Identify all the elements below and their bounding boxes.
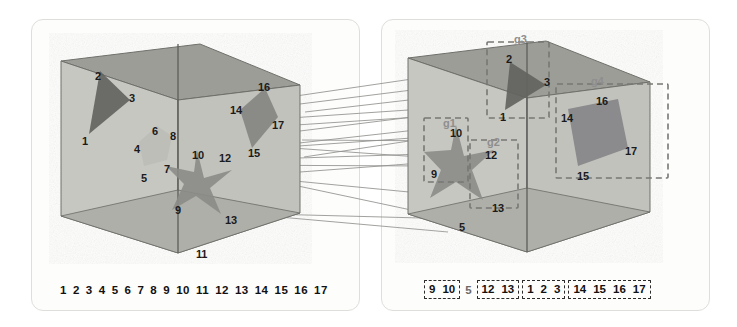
left-strip-item-1: 1 [60, 284, 67, 296]
right-strip-group-4: 14151617 [568, 280, 650, 299]
point-label-right-14: 14 [561, 113, 573, 124]
right-strip-item-17: 17 [633, 283, 646, 295]
point-label-right-12: 12 [485, 150, 497, 161]
left-strip-item-3: 3 [86, 284, 93, 296]
left-strip-item-7: 7 [137, 284, 144, 296]
left-strip-item-17: 17 [314, 284, 328, 296]
point-label-right-9: 9 [431, 169, 437, 180]
point-label-left-2: 2 [95, 71, 101, 82]
right-volume-panel [381, 19, 710, 311]
point-label-left-6: 6 [152, 126, 158, 137]
point-label-right-1: 1 [500, 112, 506, 123]
right-strip-group-3: 123 [522, 280, 565, 299]
left-strip-item-5: 5 [112, 284, 119, 296]
point-label-left-7: 7 [164, 164, 170, 175]
right-strip-group-0: 910 [424, 280, 460, 299]
right-strip-item-16: 16 [613, 283, 626, 295]
left-strip-item-15: 15 [275, 284, 289, 296]
left-strip-item-8: 8 [150, 284, 157, 296]
point-label-left-3: 3 [129, 93, 135, 104]
point-label-left-14: 14 [230, 105, 242, 116]
left-strip-item-2: 2 [73, 284, 80, 296]
point-label-right-15: 15 [577, 171, 589, 182]
left-strip-item-11: 11 [196, 284, 209, 296]
right-index-strip: 9105121312314151617 [424, 280, 651, 299]
right-strip-item-1: 1 [527, 283, 533, 295]
group-label-g2: g2 [487, 136, 500, 148]
point-label-left-1: 1 [82, 136, 88, 147]
point-label-left-8: 8 [170, 131, 176, 142]
point-label-left-15: 15 [248, 148, 260, 159]
right-strip-item-12: 12 [482, 283, 495, 295]
figure-root: 1234567891011121314151617231141617151091… [0, 0, 737, 327]
point-label-left-11: 11 [196, 249, 207, 260]
point-label-right-5: 5 [459, 222, 465, 233]
left-volume-panel [31, 19, 360, 311]
right-strip-item-5: 5 [465, 284, 471, 296]
right-strip-item-10: 10 [442, 283, 455, 295]
right-strip-item-9: 9 [429, 283, 435, 295]
right-strip-item-2: 2 [541, 283, 547, 295]
point-label-right-17: 17 [625, 146, 637, 157]
right-strip-group-1: 5 [463, 282, 473, 298]
point-label-right-2: 2 [506, 54, 512, 65]
left-strip-item-14: 14 [255, 284, 269, 296]
point-label-right-13: 13 [492, 203, 504, 214]
point-label-right-3: 3 [544, 77, 550, 88]
group-label-g4: g4 [591, 75, 604, 87]
right-strip-item-13: 13 [501, 283, 514, 295]
group-label-g3: g3 [514, 33, 527, 45]
left-strip-item-4: 4 [99, 284, 106, 296]
point-label-left-17: 17 [272, 120, 284, 131]
point-label-right-16: 16 [596, 96, 608, 107]
point-label-left-16: 16 [258, 82, 270, 93]
point-label-left-5: 5 [141, 173, 147, 184]
point-label-right-10: 10 [450, 128, 462, 139]
point-label-left-13: 13 [225, 215, 237, 226]
left-strip-item-10: 10 [176, 284, 190, 296]
left-strip-item-9: 9 [163, 284, 170, 296]
right-strip-item-3: 3 [554, 283, 560, 295]
point-label-left-10: 10 [192, 150, 204, 161]
left-strip-item-12: 12 [215, 284, 229, 296]
right-strip-item-14: 14 [573, 283, 586, 295]
group-label-g1: g1 [443, 117, 456, 129]
left-strip-item-13: 13 [235, 284, 249, 296]
left-index-strip: 1234567891011121314151617 [60, 284, 334, 296]
right-strip-group-2: 1213 [477, 280, 520, 299]
right-strip-item-15: 15 [593, 283, 606, 295]
point-label-left-4: 4 [134, 144, 140, 155]
left-strip-item-16: 16 [294, 284, 308, 296]
point-label-left-12: 12 [219, 153, 231, 164]
left-strip-item-6: 6 [125, 284, 132, 296]
point-label-left-9: 9 [175, 205, 181, 216]
